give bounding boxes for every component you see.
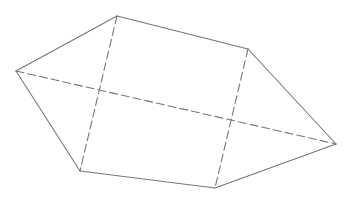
solid-edge-l-t xyxy=(16,16,117,71)
solid-edges xyxy=(16,16,336,188)
solid-edge-tr-r xyxy=(248,49,336,144)
hidden-dashed-edges xyxy=(16,16,336,188)
dashed-edge-l-r xyxy=(16,71,336,144)
diagram-canvas xyxy=(0,0,346,201)
solid-edge-t-tr xyxy=(117,16,248,49)
polyhedron-diagram xyxy=(0,0,346,201)
dashed-edge-tr-br xyxy=(215,49,248,188)
solid-edge-br-bl xyxy=(80,171,215,188)
solid-edge-r-br xyxy=(215,144,336,188)
dashed-edge-t-bl xyxy=(80,16,117,171)
solid-edge-bl-l xyxy=(16,71,80,171)
